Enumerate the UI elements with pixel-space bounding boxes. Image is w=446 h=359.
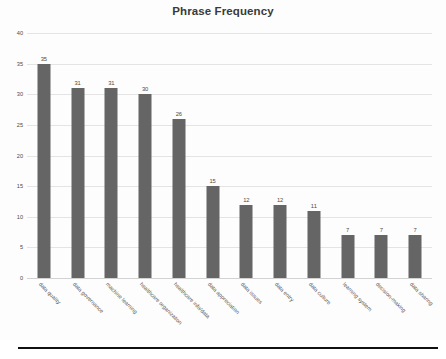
y-axis-tick-label: 15 bbox=[17, 183, 23, 189]
x-axis-tick-label: data entry bbox=[274, 281, 296, 303]
bar-value-label: 26 bbox=[176, 111, 182, 117]
chart-title: Phrase Frequency bbox=[0, 5, 446, 17]
chart-figure: Phrase Frequency 0510152025303540 353131… bbox=[0, 0, 446, 340]
bar-group[interactable]: 7 bbox=[398, 33, 432, 278]
x-axis-tick-label: machine learning bbox=[105, 281, 139, 315]
bar[interactable] bbox=[341, 235, 354, 278]
y-axis-tick-label: 5 bbox=[20, 244, 23, 250]
bar-group[interactable]: 30 bbox=[128, 33, 162, 278]
bar-value-label: 15 bbox=[209, 178, 215, 184]
bar-group[interactable]: 26 bbox=[162, 33, 196, 278]
bar-value-label: 7 bbox=[346, 227, 349, 233]
bar[interactable] bbox=[307, 211, 320, 278]
bar-group[interactable]: 31 bbox=[95, 33, 129, 278]
bar-group[interactable]: 35 bbox=[27, 33, 61, 278]
y-axis-tick-label: 25 bbox=[17, 122, 23, 128]
bar-group[interactable]: 7 bbox=[331, 33, 365, 278]
plot-area: 0510152025303540 353131302615121211777 bbox=[27, 33, 432, 278]
bar-value-label: 35 bbox=[41, 56, 47, 62]
bar[interactable] bbox=[71, 88, 84, 278]
bar-group[interactable]: 31 bbox=[61, 33, 95, 278]
bar-value-label: 30 bbox=[142, 86, 148, 92]
bar[interactable] bbox=[105, 88, 118, 278]
y-axis-tick-label: 0 bbox=[20, 275, 23, 281]
bar[interactable] bbox=[139, 94, 152, 278]
bar[interactable] bbox=[409, 235, 422, 278]
footer-divider bbox=[18, 347, 438, 349]
bar-value-label: 31 bbox=[74, 80, 80, 86]
bar-group[interactable]: 15 bbox=[196, 33, 230, 278]
bar-value-label: 12 bbox=[243, 197, 249, 203]
bar-group[interactable]: 7 bbox=[365, 33, 399, 278]
bars-layer: 353131302615121211777 bbox=[27, 33, 432, 278]
bar[interactable] bbox=[375, 235, 388, 278]
bar[interactable] bbox=[240, 205, 253, 279]
bar[interactable] bbox=[206, 186, 219, 278]
bar-value-label: 11 bbox=[311, 203, 317, 209]
y-axis-tick-label: 30 bbox=[17, 91, 23, 97]
x-axis-tick-label: healthcare info/data bbox=[173, 281, 211, 319]
bar-value-label: 7 bbox=[380, 227, 383, 233]
bar[interactable] bbox=[172, 119, 185, 278]
x-axis-tick-label: data culture bbox=[308, 281, 333, 306]
x-axis-tick-label: data sharing bbox=[409, 281, 435, 307]
x-axis-tick-label: data governance bbox=[71, 281, 104, 314]
y-axis-tick-label: 35 bbox=[17, 61, 23, 67]
bar-value-label: 7 bbox=[414, 227, 417, 233]
bar-group[interactable]: 12 bbox=[230, 33, 264, 278]
bar[interactable] bbox=[37, 64, 50, 278]
y-axis-tick-label: 40 bbox=[17, 30, 23, 36]
bar-group[interactable]: 11 bbox=[297, 33, 331, 278]
x-axis-tick-label: data quality bbox=[38, 281, 62, 305]
bar-value-label: 12 bbox=[277, 197, 283, 203]
y-axis-tick-label: 10 bbox=[17, 214, 23, 220]
x-axis-tick-label: data issues bbox=[240, 281, 264, 305]
x-axis-tick-label: learning system bbox=[341, 281, 372, 312]
x-axis-tick-label: decision-making bbox=[375, 281, 407, 313]
x-axis-labels: data qualitydata governancemachine learn… bbox=[27, 279, 432, 339]
bar-group[interactable]: 12 bbox=[263, 33, 297, 278]
bar-value-label: 31 bbox=[108, 80, 114, 86]
y-axis-tick-label: 20 bbox=[17, 153, 23, 159]
x-axis-tick-label: data appreciation bbox=[206, 281, 240, 315]
bar[interactable] bbox=[274, 205, 287, 279]
